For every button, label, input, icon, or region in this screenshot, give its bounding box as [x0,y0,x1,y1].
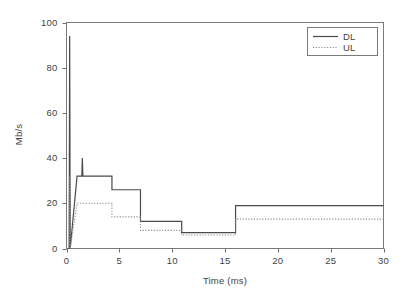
y-tick-label-60: 60 [0,107,58,118]
chart-figure: 0 20 40 60 80 100 0 5 10 15 20 25 30 Mb/… [0,0,406,304]
y-axis-ticks [63,24,67,250]
y-tick-label-100: 100 [0,17,58,28]
y-tick-label-80: 80 [0,62,58,73]
x-tick-label-20: 20 [258,255,298,266]
legend-label-ul: UL [343,42,356,53]
x-tick-label-30: 30 [364,255,404,266]
x-tick-label-15: 15 [205,255,245,266]
x-tick-label-5: 5 [99,255,139,266]
y-axis-title: Mb/s [13,104,24,164]
x-axis-title: Time (ms) [165,275,285,286]
x-tick-label-0: 0 [47,255,87,266]
y-tick-label-0: 0 [0,243,58,254]
x-axis-ticks [68,249,385,253]
y-tick-label-20: 20 [0,197,58,208]
x-tick-label-10: 10 [152,255,192,266]
y-tick-label-40: 40 [0,152,58,163]
x-tick-label-25: 25 [311,255,351,266]
legend-label-dl: DL [343,31,356,42]
plot-frame [67,23,384,249]
